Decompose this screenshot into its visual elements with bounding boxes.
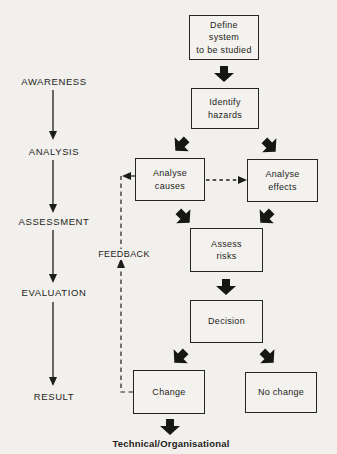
stage-label-analysis: ANALYSIS [4,146,104,157]
feedback-label: FEEDBACK [96,249,152,260]
bold-arrow-assess-to-decision-icon [216,279,236,295]
bold-arrow-decision-to-change-icon [167,344,192,369]
arrowhead-causes-to-effects-icon [238,176,247,184]
bold-arrow-identify-to-effects-icon [257,133,282,158]
bold-arrow-define-to-identify-icon [214,66,234,82]
node-analyse-effects: Analyse effects [247,159,318,202]
bold-arrow-decision-to-nochange-icon [255,344,280,369]
node-decision: Decision [190,300,263,343]
node-identify-hazards: Identify hazards [191,88,259,129]
node-analyse-causes: Analyse causes [135,158,205,201]
feedback-connector [117,172,136,392]
node-define-system: Define system to be studied [189,15,259,60]
bold-arrow-causes-to-assess-icon [171,204,196,229]
node-no-change: No change [245,372,317,413]
arrowhead-assessment-to-evaluation-icon [49,274,57,283]
node-change: Change [133,370,205,414]
node-assess-risks: Assess risks [190,228,263,272]
stage-label-awareness: AWARENESS [4,76,104,87]
stage-label-result: RESULT [4,391,104,402]
arrowhead-awareness-to-analysis-icon [49,131,57,140]
bold-arrow-effects-to-assess-icon [253,204,278,229]
stage-label-evaluation: EVALUATION [4,287,104,298]
causes-effects-connector [206,176,247,184]
stage-label-assessment: ASSESSMENT [4,216,104,227]
arrowhead-evaluation-to-result-icon [49,377,57,386]
flowchart-canvas: AWARENESS ANALYSIS ASSESSMENT EVALUATION… [0,0,337,454]
feedback-dashed-line [121,176,133,392]
stage-arrows [49,90,57,386]
arrowhead-analysis-to-assessment-icon [49,204,57,213]
footer-label: Technical/Organisational [110,438,232,449]
bold-arrow-change-to-footer-icon [160,419,180,435]
bold-arrow-identify-to-causes-icon [168,132,193,157]
feedback-entry-arrowhead-icon [122,172,131,180]
